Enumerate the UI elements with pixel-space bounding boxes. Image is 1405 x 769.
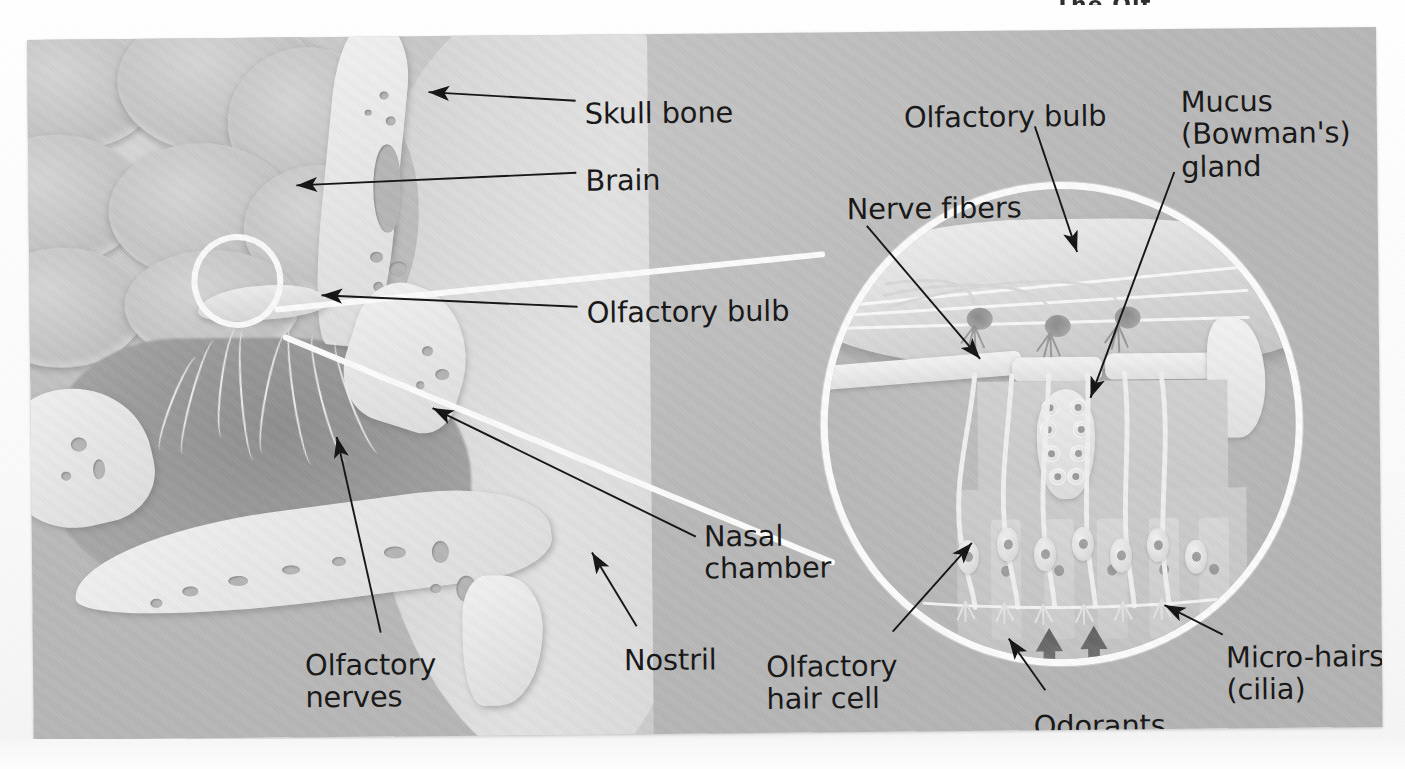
bone-cavity: [373, 144, 402, 232]
label-nerve-fibers: Nerve fibers: [847, 191, 1022, 225]
label-olfactory-hair-cell: Olfactory hair cell: [766, 650, 898, 716]
page-bottom-margin: [0, 739, 1405, 769]
olfactory-hair-cell: [1072, 527, 1094, 561]
bone-pore: [416, 381, 424, 389]
label-nostril: Nostril: [624, 643, 717, 676]
label-brain: Brain: [585, 164, 660, 197]
bone-pore: [71, 437, 87, 451]
bowmans-gland: [1036, 389, 1095, 500]
bone-pore: [386, 116, 396, 125]
bone-pore: [370, 252, 383, 263]
glomerulus: [967, 308, 993, 330]
glomerulus: [1045, 315, 1071, 337]
bone-pore: [365, 110, 372, 116]
cribriform-plate: [1012, 357, 1102, 382]
bone-pore: [380, 92, 389, 100]
bone-pore: [150, 599, 162, 608]
gland-cell: [1043, 445, 1060, 462]
bone-pore: [93, 459, 105, 479]
figure-page: The Olf: [0, 0, 1405, 769]
glomerulus: [1115, 306, 1141, 328]
label-skull-bone: Skull bone: [585, 96, 734, 130]
label-olfactory-bulb-inset: Olfactory bulb: [904, 100, 1107, 134]
head-cross-section: [27, 34, 654, 740]
olfactory-hair-cell: [997, 528, 1019, 562]
label-olfactory-nerves: Olfactory nerves: [305, 648, 437, 714]
gland-cell: [1069, 399, 1086, 416]
gland-cell: [1041, 399, 1058, 416]
label-nasal-chamber: Nasal chamber: [704, 519, 832, 585]
bone-pore: [435, 369, 449, 380]
gland-cell: [1070, 445, 1087, 462]
bone-pore: [61, 472, 71, 481]
gland-cell: [1073, 421, 1090, 438]
gland-cell: [1040, 421, 1057, 438]
support-cell: [1199, 517, 1230, 637]
gland-cell: [1049, 468, 1066, 485]
olfactory-hair-cell: [1147, 528, 1169, 562]
olfactory-hair-cell: [1185, 540, 1207, 574]
olfactory-hair-cell: [1034, 537, 1056, 571]
gland-cell: [1067, 468, 1084, 485]
magnified-inset-circle: [818, 180, 1305, 669]
label-micro-hairs: Micro-hairs (cilia): [1226, 640, 1383, 706]
olfactory-hair-cell: [1110, 538, 1132, 572]
support-cell: [1044, 519, 1075, 639]
illustration-panel-wrapper: Skull bone Brain Olfactory bulb Nasal ch…: [27, 27, 1383, 740]
bone-pore: [389, 261, 407, 276]
magnification-highlight-circle: [191, 234, 284, 329]
support-cell: [1097, 518, 1128, 638]
label-olfactory-bulb: Olfactory bulb: [586, 295, 789, 329]
bone-pore: [422, 346, 433, 356]
label-mucus-gland: Mucus (Bowman's) gland: [1180, 84, 1350, 183]
bone-pore: [430, 584, 441, 593]
illustration-panel: Skull bone Brain Olfactory bulb Nasal ch…: [27, 27, 1383, 740]
running-head-cropped: The Olf: [1055, 0, 1235, 5]
bone-pore: [432, 541, 449, 563]
olfactory-hair-cell: [957, 540, 979, 574]
